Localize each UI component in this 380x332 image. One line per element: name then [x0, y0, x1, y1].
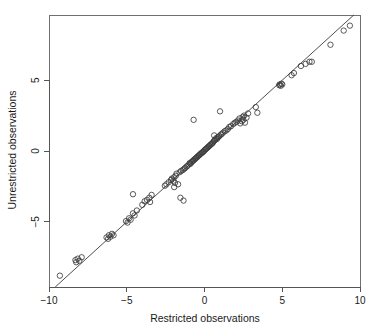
- x-tick-label: 0: [202, 295, 208, 306]
- data-point: [217, 109, 222, 114]
- plot-canvas: −10−50510 −505 Restricted observations U…: [0, 0, 380, 332]
- y-axis-title: Unrestricted observations: [6, 90, 18, 209]
- data-point: [191, 117, 196, 122]
- data-point: [57, 273, 62, 278]
- data-point: [253, 104, 258, 109]
- x-axis-title: Restricted observations: [150, 312, 260, 324]
- scatter-plot-figure: −10−50510 −505 Restricted observations U…: [0, 0, 380, 332]
- data-point: [328, 42, 333, 47]
- data-point: [341, 28, 346, 33]
- data-point: [175, 182, 180, 187]
- y-tick-label: 5: [30, 77, 41, 83]
- x-tick-label: 5: [279, 295, 285, 306]
- data-point: [130, 192, 135, 197]
- x-axis: −10−50510: [41, 287, 366, 306]
- x-tick-label: −5: [121, 295, 133, 306]
- y-tick-label: 0: [30, 148, 41, 154]
- y-axis: −505: [30, 77, 50, 228]
- x-tick-label: −10: [41, 295, 58, 306]
- data-point: [255, 110, 260, 115]
- y-tick-label: −5: [30, 216, 41, 228]
- data-point: [347, 23, 352, 28]
- x-tick-label: 10: [354, 295, 366, 306]
- data-points-group: [57, 23, 352, 278]
